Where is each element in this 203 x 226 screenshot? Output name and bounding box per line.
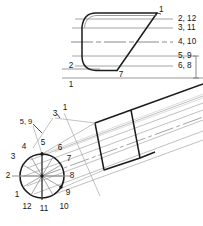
top-label-base-2: 2 [69,61,74,70]
projection-line-cross-b [62,170,104,188]
tube-top-edge [131,84,203,110]
circle-label-6: 6 [58,143,63,152]
callout-leader-5-9 [33,124,42,133]
circle-label-11: 11 [40,204,49,213]
cylinder-generators [24,96,203,198]
top-label-base-1: 1 [69,80,74,89]
generator-line-a [30,96,203,160]
tube-bottom-edge [140,152,155,158]
circle-label-2: 2 [6,171,11,180]
circle-label-1: 1 [15,190,20,199]
dimension-bracket [193,56,199,78]
top-label-6-8: 6, 8 [178,61,192,70]
pictorial-label-3: 3 [53,109,58,118]
top-label-2-12: 2, 12 [178,14,197,23]
circle-label-3: 3 [11,152,16,161]
top-label-5-9: 5, 9 [178,51,192,60]
bottom-view-group: 1 2 3 4 5 6 7 8 9 10 11 12 1 3 5, 9 [6,84,203,213]
circle-label-12: 12 [22,202,32,211]
node-center [40,174,43,177]
projection-line-cross-c [55,118,95,123]
node-5 [40,152,43,155]
pictorial-label-5-9: 5, 9 [20,117,33,126]
top-label-1: 1 [159,5,164,14]
circle-label-4: 4 [22,142,27,151]
technical-drawing-canvas: 1 2, 12 3, 11 4, 10 5, 9 6, 8 2 7 1 [0,0,203,226]
pictorial-label-1: 1 [63,103,68,112]
circle-label-7: 7 [67,154,72,163]
circle-label-8: 8 [70,171,75,180]
circle-label-5: 5 [41,138,46,147]
top-view-group: 1 2, 12 3, 11 4, 10 5, 9 6, 8 2 7 1 [62,5,203,89]
top-label-base-7: 7 [119,70,124,79]
callout-leader-3 [57,114,60,118]
circle-label-9: 9 [66,188,71,197]
top-label-4-10: 4, 10 [178,37,197,46]
drawing-svg: 1 2, 12 3, 11 4, 10 5, 9 6, 8 2 7 1 [0,0,203,226]
top-label-3-11: 3, 11 [178,23,196,32]
circle-label-10: 10 [59,202,69,211]
pipe-profile-inner [85,16,158,28]
node-9 [59,185,62,188]
